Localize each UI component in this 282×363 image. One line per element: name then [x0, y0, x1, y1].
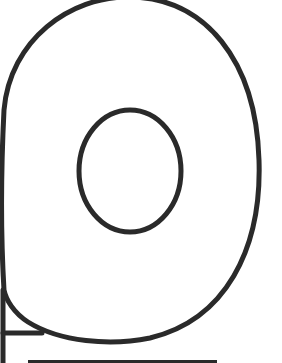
tape-roll-illustration: Line drawing of a tape roll: outer round…	[0, 0, 282, 363]
tape-roll-drawing	[0, 0, 282, 363]
inner-hole-ellipse	[79, 110, 181, 232]
outer-roll-outline	[2, 0, 259, 342]
